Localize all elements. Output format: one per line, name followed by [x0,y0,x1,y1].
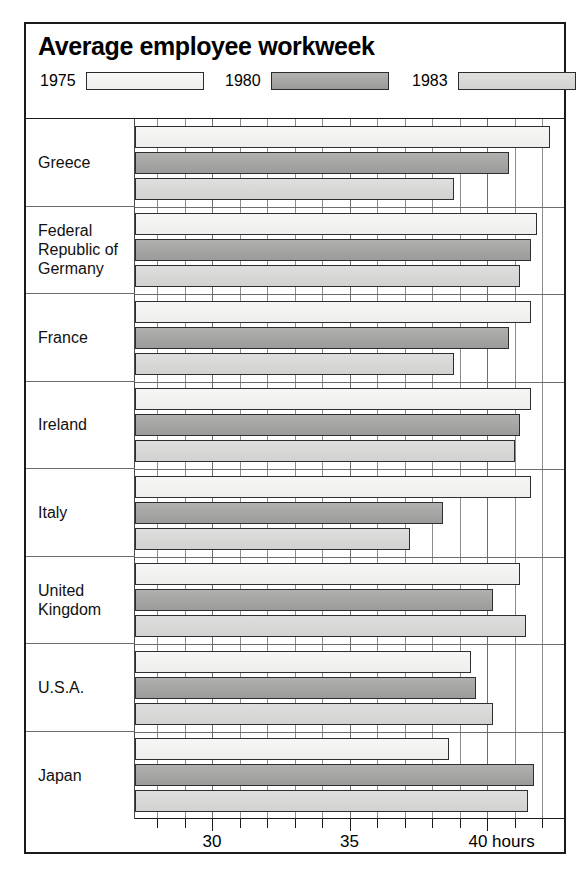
axis-tick-33 [295,819,296,828]
axis-tick-label-30: 30 [203,832,222,852]
category-label-ireland: Ireland [26,382,135,470]
category-label-u-s-a: U.S.A. [26,644,135,732]
row-separator [135,294,564,295]
chart-card: Average employee workweek 197519801983 G… [24,22,566,854]
chart-legend: 197519801983 [40,72,554,102]
legend-entry-1983: 1983 [412,72,576,90]
row-separator [135,382,564,383]
legend-entry-1980: 1980 [225,72,389,90]
bar-federal-republic-of-germany-1975 [135,213,537,235]
plot-area: GreeceFederal Republic of GermanyFranceI… [26,118,564,818]
bar-japan-1983 [135,790,528,812]
axis-tick-42 [542,819,543,828]
bar-united-kingdom-1980 [135,589,493,611]
bars-area [135,119,564,819]
axis-tick-label-35: 35 [340,832,359,852]
bar-u-s-a-1975 [135,651,471,673]
bar-greece-1975 [135,126,550,148]
bar-france-1975 [135,301,531,323]
axis-tick-28 [157,819,158,828]
axis-tick-36 [377,819,378,828]
bar-united-kingdom-1983 [135,615,526,637]
row-separator [135,557,564,558]
bar-federal-republic-of-germany-1980 [135,239,531,261]
axis-tick-37 [405,819,406,828]
chart-title: Average employee workweek [38,32,374,61]
bar-ireland-1983 [135,440,515,462]
legend-swatch-1975 [86,72,204,90]
row-separator [135,732,564,733]
bar-ireland-1975 [135,388,531,410]
axis-tick-34 [322,819,323,828]
bar-greece-1980 [135,152,509,174]
axis-tick-41 [515,819,516,828]
axis-tick-label-40: 40 hours [468,832,534,852]
row-separator [135,644,564,645]
category-label-united-kingdom: United Kingdom [26,557,135,645]
bar-japan-1975 [135,738,449,760]
x-axis: 303540 hours [26,818,564,854]
legend-label: 1980 [225,73,261,89]
axis-tick-29 [185,819,186,828]
bar-italy-1975 [135,476,531,498]
category-label-column: GreeceFederal Republic of GermanyFranceI… [26,119,135,819]
category-label-greece: Greece [26,119,135,207]
bar-u-s-a-1983 [135,703,493,725]
bar-federal-republic-of-germany-1983 [135,265,520,287]
legend-entry-1975: 1975 [40,72,204,90]
bar-u-s-a-1980 [135,677,476,699]
bar-united-kingdom-1975 [135,563,520,585]
axis-tick-32 [267,819,268,828]
category-label-federal-republic-of-germany: Federal Republic of Germany [26,207,135,295]
axis-tick-40 [487,819,488,831]
bar-japan-1980 [135,764,534,786]
axis-tick-38 [432,819,433,828]
bar-greece-1983 [135,178,454,200]
bar-italy-1980 [135,502,443,524]
row-separator [135,469,564,470]
legend-label: 1983 [412,73,448,89]
bar-france-1980 [135,327,509,349]
bar-france-1983 [135,353,454,375]
axis-tick-39 [460,819,461,828]
legend-label: 1975 [40,73,76,89]
legend-swatch-1983 [458,72,576,90]
axis-tick-31 [240,819,241,828]
legend-swatch-1980 [271,72,389,90]
category-label-france: France [26,294,135,382]
bar-italy-1983 [135,528,410,550]
category-label-japan: Japan [26,732,135,820]
axis-tick-30 [212,819,213,831]
category-label-italy: Italy [26,469,135,557]
axis-tick-35 [350,819,351,831]
bar-ireland-1980 [135,414,520,436]
row-separator [135,207,564,208]
